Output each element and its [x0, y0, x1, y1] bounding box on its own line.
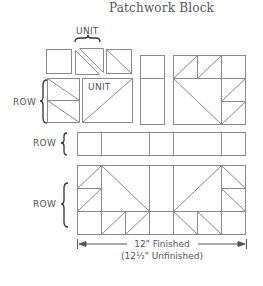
middle-row — [78, 133, 246, 156]
arrow-right-icon — [238, 242, 245, 247]
bottom-row — [78, 166, 246, 235]
brace-row-top — [40, 80, 47, 123]
unit-large-triangle — [83, 79, 133, 123]
unit-square-plain — [47, 50, 72, 74]
brace-row-middle — [61, 133, 67, 155]
arrow-left-icon — [79, 242, 86, 247]
brace-row-bottom — [61, 183, 68, 227]
unit-half-square-triangle — [107, 50, 132, 74]
brace-unit-top — [75, 35, 100, 42]
finished-dimension: 12" Finished — [87, 239, 237, 249]
corner-block — [174, 56, 246, 125]
unfinished-dimension: (12½" Unfinished) — [87, 251, 237, 261]
row-top-left-column — [48, 79, 80, 123]
tall-rectangle — [141, 56, 165, 125]
unit-split-triangles — [76, 49, 104, 75]
